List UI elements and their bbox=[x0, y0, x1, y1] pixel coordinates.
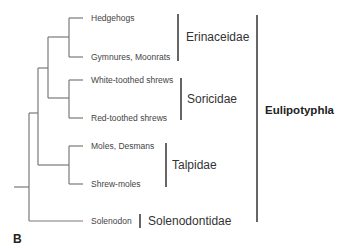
talpidae-bracket bbox=[165, 143, 167, 187]
leaf-gymnures-moonrats: Gymnures, Moonrats bbox=[91, 52, 170, 62]
order-eulipotyphla: Eulipotyphla bbox=[265, 104, 334, 116]
leaf-hedgehogs: Hedgehogs bbox=[91, 13, 134, 23]
eulipotyphla-bracket-bottom bbox=[256, 97, 258, 222]
leaf-shrew-moles: Shrew-moles bbox=[91, 179, 141, 189]
leaf-solenodon: Solenodon bbox=[91, 216, 132, 226]
soricidae-bracket bbox=[180, 78, 182, 120]
leaf-moles-desmans: Moles, Desmans bbox=[91, 141, 154, 151]
family-soricidae: Soricidae bbox=[187, 92, 237, 106]
leaf-white-toothed-shrews: White-toothed shrews bbox=[91, 75, 173, 85]
leaf-red-toothed-shrews: Red-toothed shrews bbox=[91, 113, 167, 123]
erinaceidae-bracket bbox=[177, 14, 179, 61]
solenodontidae-bracket bbox=[139, 214, 141, 228]
eulipotyphla-bracket-top bbox=[256, 15, 258, 97]
phylogenetic-tree bbox=[0, 0, 347, 249]
panel-label: B bbox=[13, 232, 22, 246]
family-talpidae: Talpidae bbox=[172, 158, 217, 172]
family-solenodontidae: Solenodontidae bbox=[148, 214, 231, 228]
family-erinaceidae: Erinaceidae bbox=[186, 30, 249, 44]
